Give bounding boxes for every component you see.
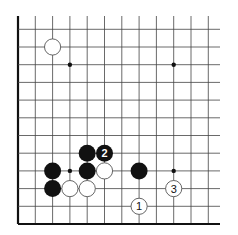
star-point-icon (172, 169, 176, 173)
white-stone-icon (62, 181, 78, 197)
white-stone-move-3: 3 (166, 181, 182, 197)
move-number: 3 (171, 183, 177, 195)
stones-layer: 231 (44, 39, 182, 215)
black-stone-icon (44, 180, 61, 197)
white-stone (96, 163, 112, 179)
white-stone (45, 39, 61, 55)
white-stone-icon (96, 163, 112, 179)
black-stone-icon (131, 162, 148, 179)
star-point-icon (172, 62, 176, 66)
move-number: 1 (136, 200, 142, 212)
go-board-diagram: 231 (0, 0, 238, 235)
white-stone (79, 181, 95, 197)
white-stone-icon (45, 39, 61, 55)
black-stone (131, 162, 148, 179)
black-stone (44, 162, 61, 179)
star-point-icon (68, 169, 72, 173)
black-stone-icon (44, 162, 61, 179)
black-stone-move-2: 2 (96, 145, 113, 162)
black-stone (79, 145, 96, 162)
white-stone-icon (79, 181, 95, 197)
move-number: 2 (101, 147, 107, 159)
black-stone (79, 162, 96, 179)
black-stone-icon (79, 145, 96, 162)
star-point-icon (68, 62, 72, 66)
white-stone-move-1: 1 (131, 198, 147, 214)
white-stone (62, 181, 78, 197)
black-stone-icon (79, 162, 96, 179)
black-stone (44, 180, 61, 197)
